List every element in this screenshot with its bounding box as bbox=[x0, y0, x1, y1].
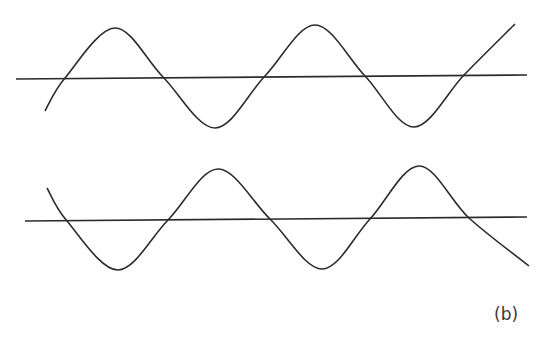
bottom-axis-line bbox=[25, 217, 527, 221]
figure-label: (b) bbox=[494, 304, 518, 324]
bottom-wave-panel bbox=[25, 166, 529, 270]
top-wave-panel bbox=[16, 24, 527, 128]
sine-wave-diagram bbox=[0, 0, 544, 346]
top-axis-line bbox=[16, 75, 527, 79]
